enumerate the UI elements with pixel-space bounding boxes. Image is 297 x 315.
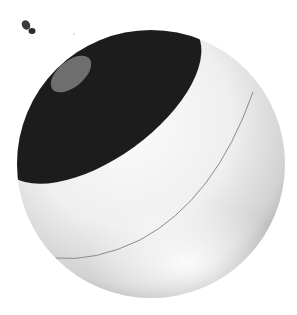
sphere-camera-render <box>0 0 297 315</box>
sphere-illustration <box>0 0 297 315</box>
speck-mark <box>20 19 35 34</box>
